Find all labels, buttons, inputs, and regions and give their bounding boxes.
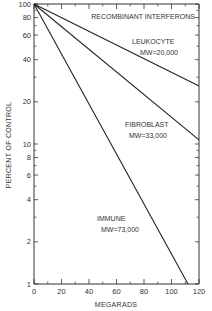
- axes: [34, 4, 199, 284]
- x-axis-title: MEGARADS: [95, 301, 137, 308]
- x-tick-label: 20: [57, 287, 65, 296]
- y-tick-label: 100: [18, 0, 31, 9]
- annotation-leukocyte: LEUKOCYTE: [132, 38, 175, 45]
- y-tick-label: 10: [23, 140, 31, 149]
- y-tick-label: 80: [23, 13, 31, 22]
- series-line-fibroblast: [34, 4, 199, 140]
- y-tick-label: 60: [23, 31, 31, 40]
- y-tick-label: 4: [27, 195, 31, 204]
- x-tick-label: 0: [32, 287, 36, 296]
- y-tick-label: 8: [27, 153, 31, 162]
- y-tick-label: 1: [27, 280, 31, 289]
- x-tick-label: 100: [165, 287, 178, 296]
- y-axis-title: PERCENT OF CONTROL: [5, 102, 12, 189]
- y-tick-label: 20: [23, 97, 31, 106]
- annotation-fibroblast-mw: MW=33,000: [129, 132, 167, 139]
- x-tick-label: 80: [140, 287, 148, 296]
- annotation-immune: IMMUNE: [97, 215, 126, 222]
- series-lines: [34, 4, 199, 284]
- annotation-title: RECOMBINANT INTERFERONS: [91, 13, 195, 20]
- annotation-leukocyte-mw: MW=20,000: [140, 49, 178, 56]
- x-tick-label: 40: [85, 287, 93, 296]
- x-tick-label: 60: [112, 287, 120, 296]
- x-tick-label: 120: [193, 287, 206, 296]
- annotation-immune-mw: MW=73,000: [101, 226, 139, 233]
- y-tick-label: 6: [27, 171, 31, 180]
- y-tick-label: 40: [23, 55, 31, 64]
- annotation-fibroblast: FIBROBLAST: [125, 121, 169, 128]
- y-tick-label: 2: [27, 237, 31, 246]
- series-line-immune: [34, 4, 188, 284]
- chart: 124681020406080100 020406080100120 MEGAR…: [0, 0, 212, 311]
